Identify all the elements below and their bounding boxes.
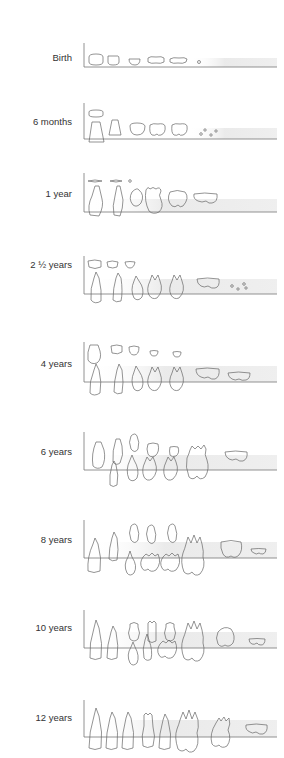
stage-12-years: 12 years	[0, 0, 284, 758]
tooth-row-12-years	[0, 0, 284, 758]
